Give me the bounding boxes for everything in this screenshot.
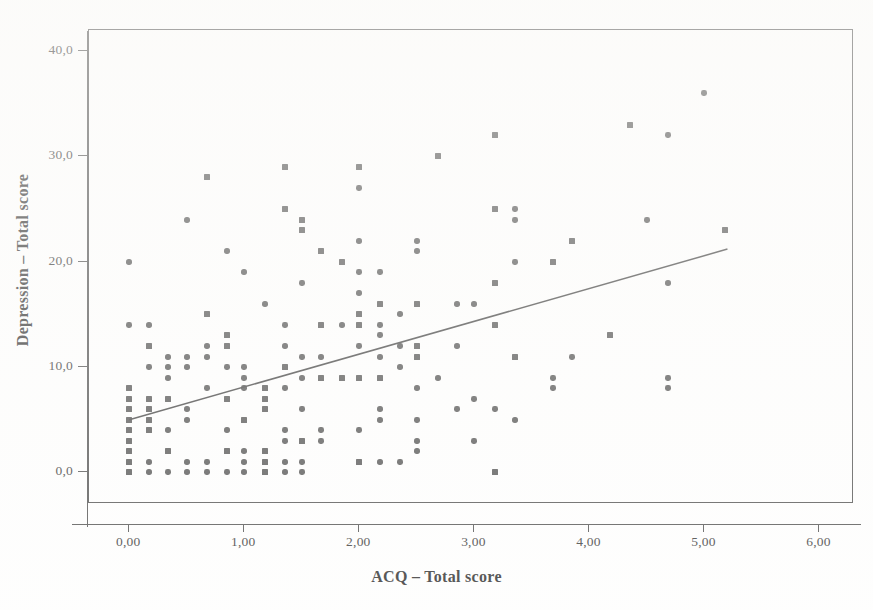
y-axis-tick-label: 0,0 <box>13 463 73 479</box>
x-axis-tick-label: 0,00 <box>116 534 140 550</box>
x-axis-tick <box>128 524 129 532</box>
x-axis-tick-label: 5,00 <box>691 534 715 550</box>
regression-line <box>89 30 852 502</box>
x-axis-tick-label: 6,00 <box>806 534 830 550</box>
x-axis-tick <box>358 524 359 532</box>
x-axis-tick <box>818 524 819 532</box>
x-axis-tick-label: 2,00 <box>346 534 370 550</box>
y-axis-tick-label: 20,0 <box>13 253 73 269</box>
x-axis-title: ACQ – Total score <box>0 568 873 586</box>
regression-line-layer <box>89 30 852 502</box>
x-axis-tick-label: 3,00 <box>461 534 485 550</box>
y-axis-tick <box>78 50 87 51</box>
scatter-plot-figure: Depression – Total score 0,001,002,003,0… <box>0 0 873 610</box>
y-axis-tick-label: 40,0 <box>13 42 73 58</box>
y-axis-tick-label: 10,0 <box>13 358 73 374</box>
y-axis-tick <box>78 155 87 156</box>
plot-area-frame <box>88 29 853 503</box>
y-axis-tick <box>78 366 87 367</box>
y-axis-tick-label: 30,0 <box>13 147 73 163</box>
x-axis-tick-label: 1,00 <box>231 534 255 550</box>
y-axis-tick <box>78 261 87 262</box>
x-axis-tick <box>243 524 244 532</box>
x-axis-spine <box>72 524 861 525</box>
x-axis-tick <box>588 524 589 532</box>
x-axis-tick <box>703 524 704 532</box>
x-axis-tick-label: 4,00 <box>576 534 600 550</box>
y-axis-tick <box>78 471 87 472</box>
x-axis-tick <box>473 524 474 532</box>
